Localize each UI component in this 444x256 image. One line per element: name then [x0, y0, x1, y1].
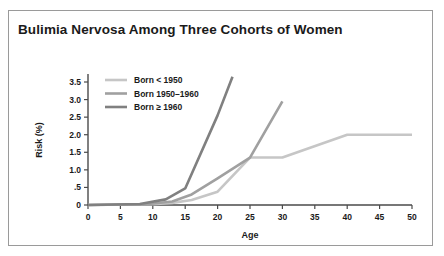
- y-axis-ticks: 0.51.01.52.02.53.03.5: [69, 77, 88, 210]
- y-tick-label: 1.5: [69, 147, 81, 157]
- y-tick-label: 3.0: [69, 95, 81, 105]
- chart-container: 0.51.01.52.02.53.03.5 051015202530354045…: [0, 0, 444, 256]
- x-tick-label: 50: [407, 212, 417, 222]
- y-tick-label: 3.5: [69, 77, 81, 87]
- x-tick-label: 30: [278, 212, 288, 222]
- chart-legend: Born < 1950Born 1950–1960Born ≥ 1960: [105, 75, 199, 112]
- x-tick-label: 35: [310, 212, 320, 222]
- line-chart: 0.51.01.52.02.53.03.5 051015202530354045…: [0, 0, 444, 256]
- x-axis-ticks: 05101520253035404550: [86, 205, 417, 222]
- x-tick-label: 0: [86, 212, 91, 222]
- x-tick-label: 25: [245, 212, 255, 222]
- y-axis-title: Risk (%): [34, 122, 44, 158]
- legend-label-2: Born ≥ 1960: [134, 102, 182, 112]
- y-tick-label: 1.0: [69, 165, 81, 175]
- x-tick-label: 45: [375, 212, 385, 222]
- legend-label-1: Born 1950–1960: [134, 89, 199, 99]
- x-axis-title: Age: [241, 230, 258, 240]
- y-tick-label: .5: [74, 182, 81, 192]
- y-tick-label: 2.0: [69, 130, 81, 140]
- x-tick-label: 20: [213, 212, 223, 222]
- series-line-0: [88, 135, 412, 205]
- x-tick-label: 40: [342, 212, 352, 222]
- legend-label-0: Born < 1950: [134, 75, 183, 85]
- y-tick-label: 2.5: [69, 112, 81, 122]
- y-tick-label: 0: [76, 200, 81, 210]
- x-tick-label: 10: [148, 212, 158, 222]
- x-tick-label: 5: [118, 212, 123, 222]
- x-tick-label: 15: [180, 212, 190, 222]
